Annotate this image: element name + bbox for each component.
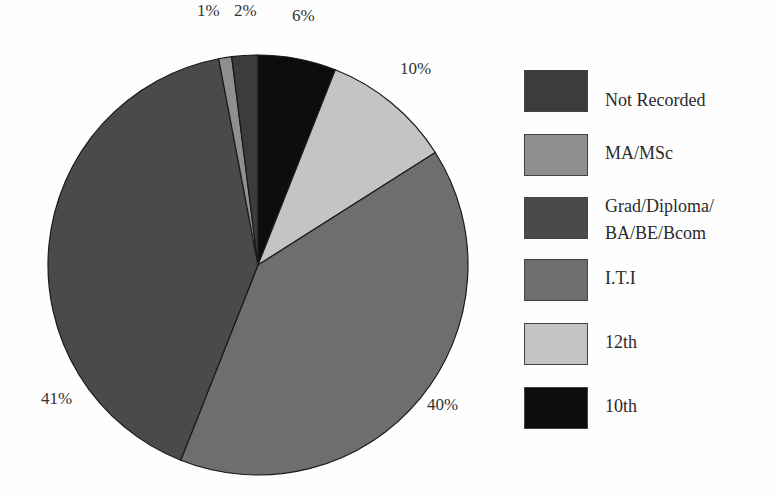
- label-ma-msc-pct: 1%: [197, 1, 220, 21]
- legend-swatch-12th: [524, 323, 588, 365]
- legend-swatch-10th: [524, 387, 588, 429]
- label-10th-pct: 6%: [292, 6, 315, 26]
- legend-label: 10th: [605, 393, 637, 420]
- legend-swatch-ma-msc: [524, 134, 588, 176]
- legend-swatch-not-recorded: [524, 70, 588, 112]
- legend-label: MA/MSc: [605, 140, 673, 167]
- label-grad-pct: 41%: [41, 389, 72, 409]
- legend-label: Grad/Diploma/ BA/BE/Bcom: [605, 193, 714, 247]
- pie-chart: [0, 0, 520, 498]
- label-not-recorded-pct: 2%: [234, 1, 257, 21]
- legend-label: Not Recorded: [605, 87, 705, 114]
- legend-label: 12th: [605, 329, 637, 356]
- label-iti-pct: 40%: [427, 395, 458, 415]
- legend-swatch-iti: [524, 259, 588, 301]
- legend-label: I.T.I: [605, 265, 636, 292]
- label-12th-pct: 10%: [400, 59, 431, 79]
- legend-swatch-grad: [524, 197, 588, 239]
